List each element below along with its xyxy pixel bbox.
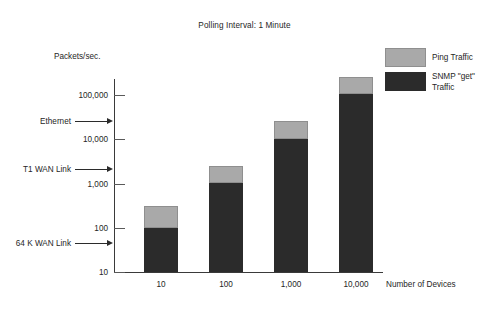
legend-swatch-ping-traffic bbox=[385, 48, 426, 67]
y-tick-label-10000: 10,000 bbox=[0, 135, 108, 144]
bar-segment-ping-1000 bbox=[274, 121, 308, 139]
bar-segment-snmp-10000 bbox=[339, 94, 373, 272]
y-tick-label-10: 10 bbox=[0, 268, 108, 277]
y-axis-line bbox=[114, 79, 115, 273]
bar-segment-snmp-100 bbox=[209, 183, 243, 272]
legend-swatch-snmp-get-traffic bbox=[385, 72, 426, 91]
y-tick-label-text: 100 bbox=[0, 224, 108, 233]
annotation-ethernet: Ethernet bbox=[0, 116, 114, 126]
annotation-label: T1 WAN Link bbox=[23, 165, 75, 174]
y-tick-mark bbox=[114, 228, 125, 229]
bar-segment-snmp-10 bbox=[144, 228, 178, 272]
legend-label-ping-traffic: Ping Traffic bbox=[432, 53, 473, 64]
bar-segment-snmp-1000 bbox=[274, 139, 308, 272]
arrow-right-icon bbox=[75, 240, 113, 247]
annotation-label: Ethernet bbox=[40, 117, 75, 126]
y-tick-mark bbox=[114, 139, 125, 140]
y-tick-label-text: 10 bbox=[0, 268, 108, 277]
y-axis-title: Packets/sec. bbox=[54, 52, 100, 61]
annotation-t1-wan-link: T1 WAN Link bbox=[0, 164, 114, 174]
y-tick-mark bbox=[114, 95, 125, 96]
y-tick-label-text: 1,000 bbox=[0, 180, 108, 189]
y-tick-label-text: 10,000 bbox=[0, 135, 108, 144]
arrow-right-icon bbox=[75, 166, 113, 173]
x-tick-label-10000: 10,000 bbox=[326, 280, 386, 289]
bar-segment-ping-100 bbox=[209, 166, 243, 184]
x-axis-title: Number of Devices bbox=[386, 280, 456, 291]
bar-segment-ping-10000 bbox=[339, 77, 373, 95]
bar-segment-ping-10 bbox=[144, 206, 178, 227]
y-tick-mark bbox=[114, 184, 125, 185]
x-tick-label-1000: 1,000 bbox=[261, 280, 321, 289]
y-tick-label-1000: 1,000 bbox=[0, 180, 108, 189]
y-tick-label-text: 100,000 bbox=[0, 91, 108, 100]
annotation-label: 64 K WAN Link bbox=[16, 239, 75, 248]
legend-label-snmp-get-traffic: SNMP "get" Traffic bbox=[432, 72, 475, 93]
chart-title: Polling Interval: 1 Minute bbox=[0, 21, 489, 30]
x-tick-label-10: 10 bbox=[131, 280, 191, 289]
y-tick-label-100: 100 bbox=[0, 224, 108, 233]
x-axis-line bbox=[114, 272, 383, 273]
x-tick-label-100: 100 bbox=[196, 280, 256, 289]
chart-container: Polling Interval: 1 Minute Packets/sec. … bbox=[0, 0, 489, 320]
y-tick-label-100000: 100,000 bbox=[0, 91, 108, 100]
annotation-64k-wan-link: 64 K WAN Link bbox=[0, 238, 114, 248]
y-tick-mark bbox=[114, 272, 125, 273]
arrow-right-icon bbox=[75, 118, 113, 125]
